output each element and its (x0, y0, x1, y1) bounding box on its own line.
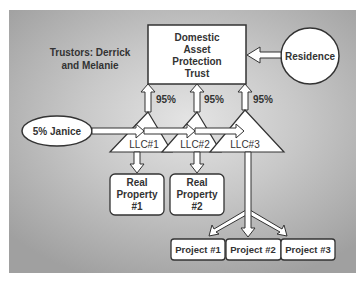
property-2-line-3: #2 (191, 201, 203, 212)
janice-node: 5% Janice (22, 116, 92, 146)
property-1-line-3: #1 (131, 201, 143, 212)
janice-arrow-1-icon (92, 124, 144, 138)
llc-3-label: LLC#3 (230, 139, 260, 150)
property-arrow-1-icon (130, 152, 144, 173)
project-3-label: Project #3 (285, 244, 330, 255)
property-arrow-2-icon (190, 152, 204, 173)
trust-box: Domestic Asset Protection Trust (148, 25, 246, 84)
residence-label: Residence (285, 51, 335, 62)
ownership-arrow-2-icon (190, 84, 204, 112)
diagram-canvas: Trustors: Derrick and Melanie Domestic A… (0, 0, 363, 281)
trustors-label-line1: Trustors: Derrick (50, 47, 131, 58)
ownership-label-3: 95% (253, 94, 273, 105)
llc-2-label: LLC#2 (180, 139, 210, 150)
trust-line-4: Trust (185, 68, 210, 79)
ownership-arrow-3-icon (238, 84, 252, 110)
project-2-label: Project #2 (230, 244, 275, 255)
llc-1-label: LLC#1 (129, 139, 159, 150)
trustors-label-line2: and Melanie (61, 60, 119, 71)
property-2-line-1: Real (186, 177, 207, 188)
project-1: Project #1 (171, 239, 225, 260)
trust-line-3: Protection (172, 56, 221, 67)
janice-label: 5% Janice (33, 126, 82, 137)
property-1-line-1: Real (126, 177, 147, 188)
residence-arrow-icon (247, 47, 281, 63)
ownership-arrow-1-icon (141, 84, 155, 112)
project-2: Project #2 (226, 239, 281, 260)
real-property-1: Real Property #1 (110, 174, 164, 215)
residence-node: Residence (281, 28, 339, 84)
trust-line-2: Asset (183, 44, 211, 55)
project-1-label: Project #1 (175, 244, 221, 255)
real-property-2: Real Property #2 (170, 174, 224, 215)
project-3: Project #3 (281, 239, 335, 260)
property-1-line-2: Property (116, 189, 158, 200)
ownership-label-2: 95% (204, 94, 224, 105)
property-2-line-2: Property (176, 189, 218, 200)
trust-line-1: Domestic (174, 32, 219, 43)
ownership-label-1: 95% (156, 94, 176, 105)
